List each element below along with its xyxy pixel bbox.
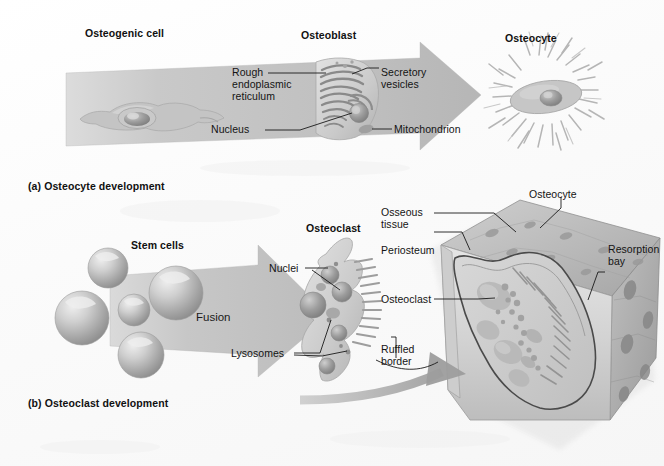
label-osteoclast-bone: Osteoclast [381,293,431,305]
stem-cells [55,248,203,378]
osteoclast-cell-b [300,238,381,381]
label-osseous-tissue: Osseous tissue [381,206,423,230]
panel-a-heading-osteoblast: Osteoblast [301,29,356,41]
osteocyte-cell-a [484,32,604,150]
label-osteocyte-bone: Osteocyte [529,188,577,200]
label-lysosomes: Lysosomes [231,347,284,359]
label-fusion: Fusion [196,311,231,324]
panel-a-heading-osteocyte: Osteocyte [505,32,557,44]
label-resorption-bay: Resorption bay [608,243,659,267]
label-secretory-vesicles: Secretory vesicles [381,66,426,90]
label-periosteum: Periosteum [381,244,435,256]
panel-b-caption: (b) Osteoclast development [28,397,168,409]
label-nuclei: Nuclei [269,262,298,274]
osteoblast-cell [316,58,378,140]
panel-b-heading-stem-cells: Stem cells [131,239,184,251]
label-ruffled-border: Ruffled border [381,343,414,367]
label-mitochondrion: Mitochondrion [394,123,461,135]
label-nucleus: Nucleus [211,123,249,135]
panel-a-caption: (a) Osteocyte development [28,180,165,192]
label-rough-endoplasmic-reticulum: Rough endoplasmic reticulum [232,66,292,103]
panel-b-heading-osteoclast: Osteoclast [306,222,361,234]
panel-a-heading-osteogenic-cell: Osteogenic cell [85,27,164,39]
bone-cell-development-figure: Osteogenic cell Osteoblast Osteocyte Rou… [0,0,664,466]
